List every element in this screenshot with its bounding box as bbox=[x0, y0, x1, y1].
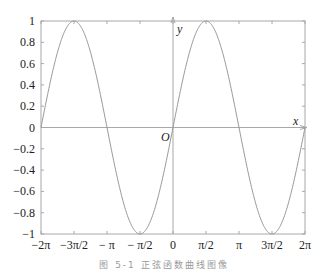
y-tick-label: −0.8 bbox=[13, 206, 35, 220]
y-tick-labels: 10.80.60.40.20−0.2−0.4−0.6−0.8−1 bbox=[13, 14, 35, 241]
y-tick-label: 0.4 bbox=[20, 78, 35, 92]
y-tick-label: 0.2 bbox=[20, 99, 35, 113]
x-tick-label: 0 bbox=[170, 238, 176, 252]
x-tick-label: − π bbox=[99, 238, 115, 252]
y-tick-label: −0.2 bbox=[13, 142, 35, 156]
y-tick-label: 0.6 bbox=[20, 57, 35, 71]
x-tick-label: −3π/2 bbox=[60, 238, 88, 252]
x-tick-label: 2π bbox=[299, 238, 311, 252]
x-tick-label: − π/2 bbox=[127, 238, 152, 252]
axes bbox=[41, 17, 307, 234]
x-tick-label: −2π bbox=[32, 238, 51, 252]
y-tick-label: 0 bbox=[29, 121, 35, 135]
x-axis-label: x bbox=[292, 114, 299, 128]
y-tick-label: −0.4 bbox=[13, 163, 35, 177]
y-axis-label: y bbox=[176, 22, 183, 36]
y-tick-label: −0.6 bbox=[13, 184, 35, 198]
y-tick-label: 1 bbox=[29, 14, 35, 28]
sine-chart: 10.80.60.40.20−0.2−0.4−0.6−0.8−1 −2π−3π/… bbox=[0, 0, 328, 278]
y-tick-label: 0.8 bbox=[20, 35, 35, 49]
figure-caption: 图 5-1 正弦函数曲线图像 bbox=[0, 258, 328, 271]
x-tick-label: 3π/2 bbox=[261, 238, 282, 252]
x-tick-label: π bbox=[236, 238, 242, 252]
origin-label: O bbox=[161, 130, 170, 144]
x-tick-label: π/2 bbox=[198, 238, 213, 252]
x-tick-labels: −2π−3π/2− π− π/20π/2π3π/22π bbox=[32, 238, 311, 252]
